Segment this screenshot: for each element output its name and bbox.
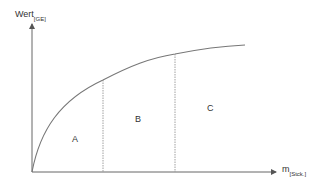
diagram-canvas [0, 0, 323, 189]
x-axis-unit: [Stck.] [290, 171, 307, 177]
y-axis-title: Wert [15, 9, 34, 19]
x-axis-title: m [282, 164, 290, 174]
region-b-label: B [135, 115, 141, 124]
y-axis-label: Wert[GE] [15, 10, 46, 19]
x-axis-label: m[Stck.] [282, 165, 306, 174]
region-a-label: A [72, 135, 78, 144]
y-axis-unit: [GE] [34, 16, 46, 22]
region-c-label: C [207, 104, 214, 113]
